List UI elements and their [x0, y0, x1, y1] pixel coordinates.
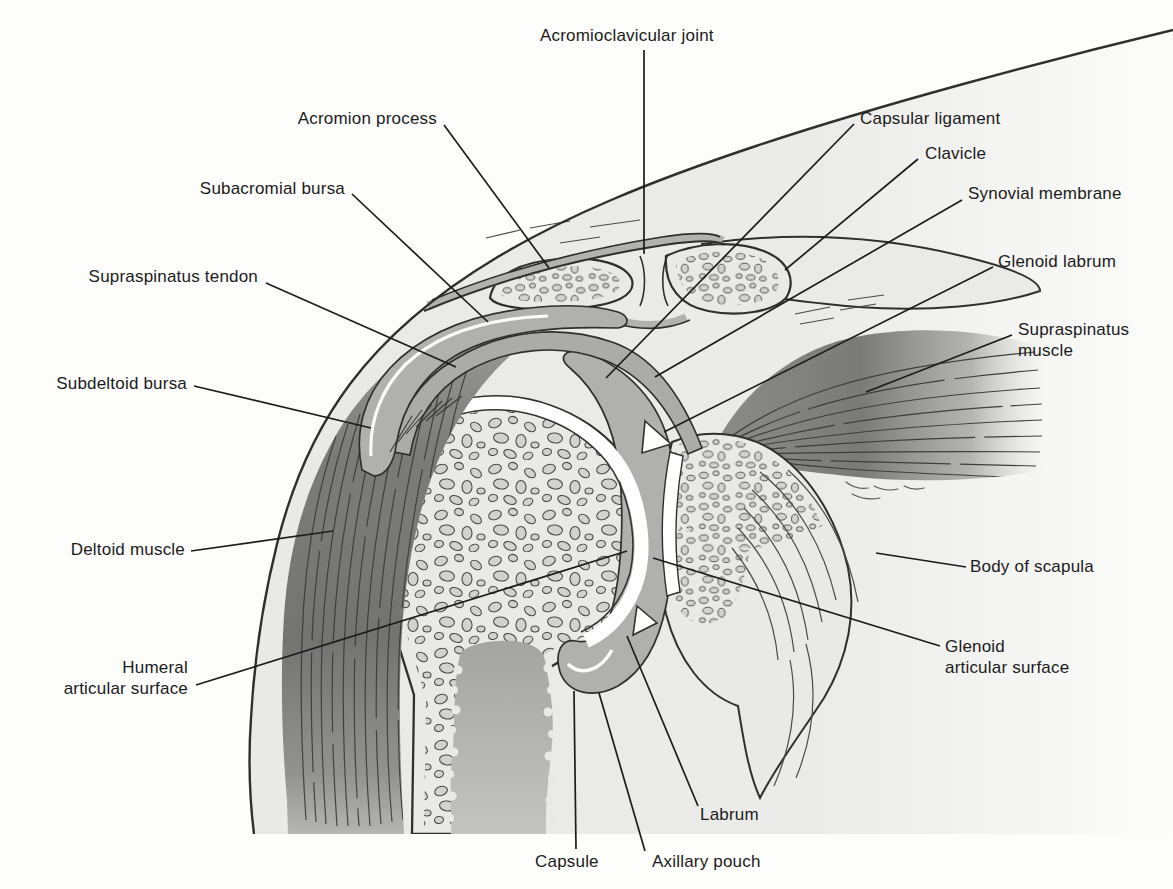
medullary-canal [451, 641, 553, 834]
shoulder-joint-figure: Acromioclavicular joint Acromion process… [0, 0, 1173, 889]
label-glenoid-labrum: Glenoid labrum [998, 252, 1116, 273]
label-humeral-articular-surface: Humeral articular surface [64, 658, 188, 699]
label-axillary-pouch: Axillary pouch [652, 852, 761, 873]
label-capsular-ligament: Capsular ligament [860, 109, 1000, 130]
figure-illustration [0, 0, 1173, 889]
label-synovial-membrane: Synovial membrane [968, 184, 1122, 205]
label-labrum: Labrum [700, 805, 759, 826]
label-clavicle: Clavicle [925, 144, 986, 165]
label-glenoid-articular-surface: Glenoid articular surface [945, 637, 1069, 678]
label-acromion-process: Acromion process [298, 109, 437, 130]
label-subacromial-bursa: Subacromial bursa [200, 179, 345, 200]
leader-acromion-process [444, 125, 549, 268]
leader-subacromial-bursa [352, 194, 488, 322]
label-deltoid-muscle: Deltoid muscle [71, 540, 185, 561]
label-capsule: Capsule [535, 852, 599, 873]
label-supraspinatus-muscle: Supraspinatus muscle [1018, 320, 1129, 361]
label-body-of-scapula: Body of scapula [970, 557, 1094, 578]
label-subdeltoid-bursa: Subdeltoid bursa [56, 374, 187, 395]
label-supraspinatus-tendon: Supraspinatus tendon [89, 267, 258, 288]
label-acromioclavicular-joint: Acromioclavicular joint [540, 26, 714, 47]
